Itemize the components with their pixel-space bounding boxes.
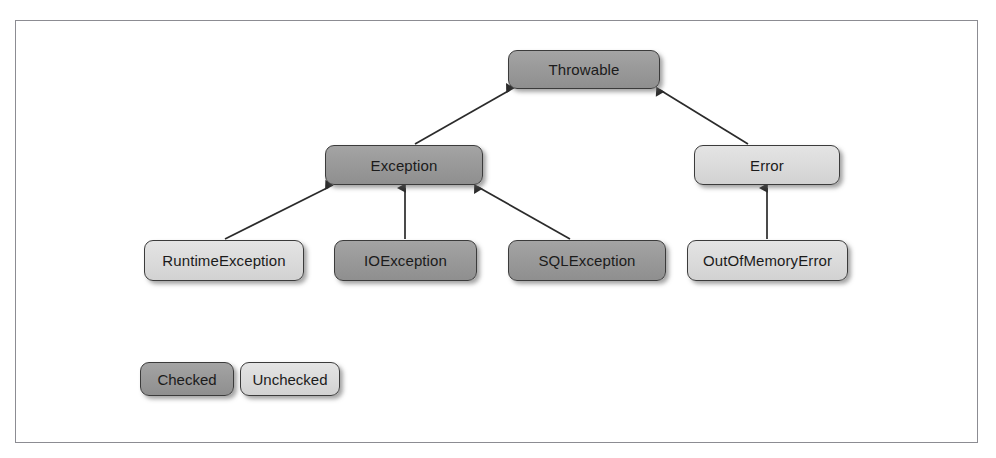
legend-item-checked: Checked [140,362,234,396]
figure-caption [18,448,438,457]
node-exception: Exception [325,145,483,185]
node-error: Error [694,145,840,185]
node-runtimeexception: RuntimeException [144,240,304,281]
legend-item-unchecked: Unchecked [240,362,340,396]
node-throwable: Throwable [508,50,660,89]
node-outofmemoryerror: OutOfMemoryError [687,240,848,281]
node-ioexception-label: IOException [364,252,447,269]
node-runtimeexception-label: RuntimeException [162,252,285,269]
node-sqlexception-label: SQLException [538,252,635,269]
node-throwable-label: Throwable [549,61,620,78]
node-exception-label: Exception [371,157,438,174]
node-outofmemoryerror-label: OutOfMemoryError [703,252,832,269]
node-error-label: Error [750,157,784,174]
node-sqlexception: SQLException [508,240,666,281]
legend-item-checked-label: Checked [157,371,216,388]
figure-root: Throwable Exception Error RuntimeExcepti… [0,0,996,458]
legend-item-unchecked-label: Unchecked [252,371,327,388]
node-ioexception: IOException [334,240,477,281]
